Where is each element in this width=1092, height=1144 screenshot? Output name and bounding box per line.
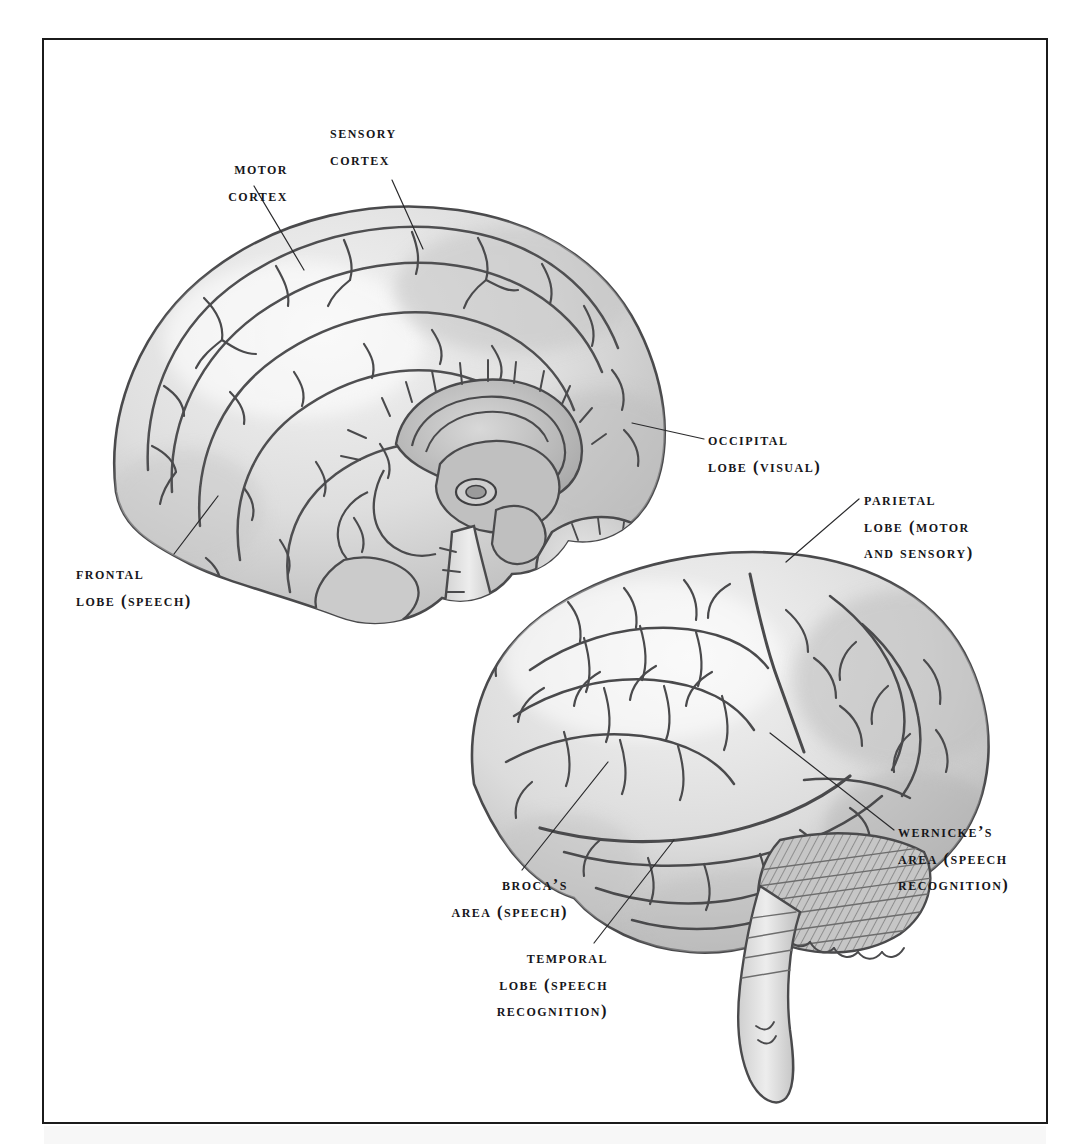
label-temporal-lobe: Temporal lobe (speech recognition)	[420, 945, 608, 1025]
label-parietal-lobe: Parietal lobe (motor and sensory)	[864, 487, 1054, 567]
footer-band	[44, 1126, 1046, 1144]
label-sensory-cortex: Sensory cortex	[330, 120, 470, 173]
illustration-page: Motor cortex Sensory cortex Occipital lo…	[0, 0, 1092, 1144]
label-motor-cortex: Motor cortex	[168, 156, 288, 209]
leader-parietal-lobe	[786, 499, 859, 562]
label-wernickes-area: Wernicke’s area (speech recognition)	[898, 819, 1078, 899]
label-occipital-lobe: Occipital lobe (visual)	[708, 427, 908, 480]
label-frontal-lobe: Frontal lobe (speech)	[76, 561, 266, 614]
label-brocas-area: Broca’s area (speech)	[398, 872, 568, 925]
